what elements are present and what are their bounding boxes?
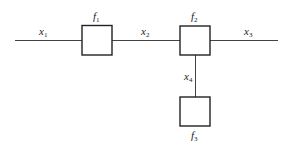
label-f2: f2 — [191, 10, 198, 24]
factor-f3-box — [180, 97, 210, 126]
label-x3: x3 — [243, 25, 253, 39]
factor-f1-box — [82, 26, 112, 56]
factor-f2-box — [180, 26, 210, 55]
label-f3: f3 — [191, 129, 198, 143]
label-f1: f1 — [93, 10, 100, 24]
label-x1: x1 — [38, 25, 48, 39]
factor-graph-diagram: x1 x2 x3 x4 f1 f2 f3 — [0, 0, 291, 150]
label-x4: x4 — [183, 70, 193, 84]
label-x2: x2 — [140, 25, 150, 39]
